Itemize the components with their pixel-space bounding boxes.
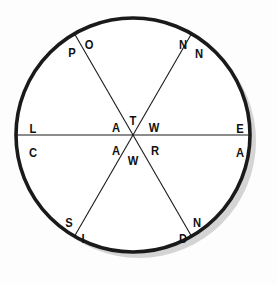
letter-label: E: [236, 122, 243, 135]
letter-label: I: [81, 232, 84, 245]
letter-label: D: [179, 232, 187, 245]
letter-label: A: [112, 121, 120, 134]
circle-diagram-svg: [0, 0, 277, 284]
letter-label: N: [195, 47, 203, 60]
diagram-canvas: P O N N L C E A A T W A W R S I D N: [0, 0, 277, 284]
letter-label: R: [151, 144, 159, 157]
letter-label: S: [65, 216, 72, 229]
letter-label: C: [29, 146, 37, 159]
letter-label: P: [68, 46, 75, 59]
letter-label: W: [149, 121, 160, 134]
letter-label: L: [30, 122, 37, 135]
letter-label: W: [128, 154, 139, 167]
letter-label: N: [193, 216, 201, 229]
letter-label: O: [85, 38, 94, 51]
letter-label: A: [112, 144, 120, 157]
letter-label: A: [236, 146, 244, 159]
letter-label: T: [130, 114, 137, 127]
letter-label: N: [179, 38, 187, 51]
